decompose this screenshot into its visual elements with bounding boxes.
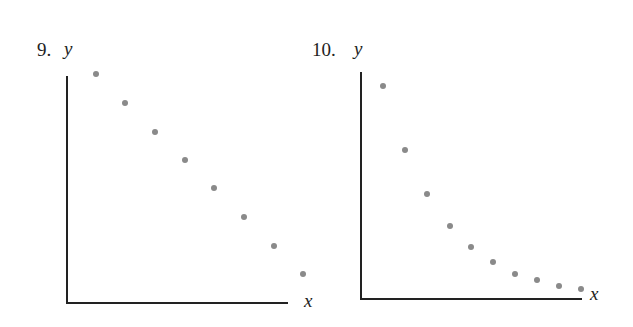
data-point [447,223,453,229]
data-point [490,259,496,265]
chart-9-x-label: x [304,291,312,310]
data-point [380,83,386,89]
data-point [534,277,540,283]
data-point [152,129,158,135]
data-point [241,214,247,220]
data-point [424,191,430,197]
data-point [93,71,99,77]
chart-9-y-label: y [64,39,72,58]
data-points [93,71,584,292]
data-point [271,243,277,249]
chart-10-x-label: x [590,284,598,303]
data-point [556,283,562,289]
data-point [578,286,584,292]
data-point [512,271,518,277]
data-point [122,100,128,106]
chart-10-y-label: y [354,39,362,58]
data-point [402,147,408,153]
data-point [211,185,217,191]
data-point [182,157,188,163]
chart-10-number: 10. [312,40,336,59]
chart-10-axes [361,72,582,299]
data-point [468,244,474,250]
chart-9-number: 9. [37,40,51,59]
data-point [300,271,306,277]
chart-9-axes [67,76,288,303]
